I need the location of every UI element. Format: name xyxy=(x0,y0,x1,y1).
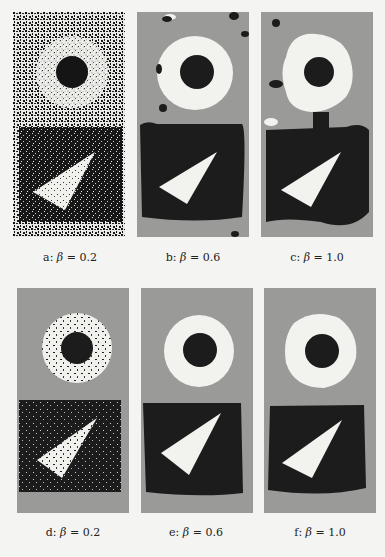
panel-e-image xyxy=(141,288,253,513)
panel-d-image xyxy=(17,288,129,513)
caption-e-beta-symbol: β xyxy=(183,526,189,539)
segmentation-image-a xyxy=(13,12,125,237)
caption-a: a: β = 0.2 xyxy=(5,251,135,265)
caption-a-value: = 0.2 xyxy=(67,251,97,264)
caption-d-letter: d: xyxy=(46,526,57,539)
caption-e-value: = 0.6 xyxy=(193,526,223,539)
segmentation-image-b xyxy=(137,12,249,237)
caption-b-letter: b: xyxy=(166,251,177,264)
caption-f-value: = 1.0 xyxy=(315,526,345,539)
segmentation-image-e xyxy=(141,288,253,513)
caption-c: c: β = 1.0 xyxy=(252,251,382,265)
caption-a-letter: a: xyxy=(43,251,53,264)
caption-c-letter: c: xyxy=(290,251,300,264)
caption-b-beta-symbol: β xyxy=(180,251,186,264)
caption-a-beta-symbol: β xyxy=(57,251,63,264)
caption-f: f: β = 1.0 xyxy=(255,526,385,540)
caption-c-beta-symbol: β xyxy=(304,251,310,264)
panel-b-image xyxy=(137,12,249,237)
panel-c-image xyxy=(261,12,373,237)
caption-c-value: = 1.0 xyxy=(314,251,344,264)
caption-f-beta-symbol: β xyxy=(306,526,312,539)
caption-d-beta-symbol: β xyxy=(60,526,66,539)
segmentation-image-f xyxy=(264,288,376,513)
panel-f-image xyxy=(264,288,376,513)
caption-b: b: β = 0.6 xyxy=(128,251,258,265)
caption-e: e: β = 0.6 xyxy=(131,526,261,540)
caption-f-letter: f: xyxy=(294,526,302,539)
caption-e-letter: e: xyxy=(169,526,179,539)
caption-d-value: = 0.2 xyxy=(70,526,100,539)
panel-a-image xyxy=(13,12,125,237)
segmentation-image-d xyxy=(17,288,129,513)
caption-b-value: = 0.6 xyxy=(190,251,220,264)
segmentation-image-c xyxy=(261,12,373,237)
caption-d: d: β = 0.2 xyxy=(8,526,138,540)
